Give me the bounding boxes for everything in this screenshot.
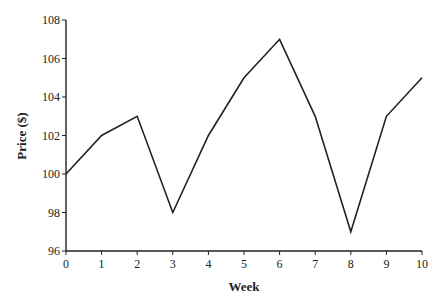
x-tick-label: 7 xyxy=(312,257,318,271)
x-tick-label: 10 xyxy=(416,257,428,271)
x-tick-label: 5 xyxy=(241,257,247,271)
x-tick-label: 1 xyxy=(99,257,105,271)
y-tick-label: 102 xyxy=(42,129,60,143)
x-tick-label: 6 xyxy=(277,257,283,271)
x-axis: 012345678910 xyxy=(63,251,428,271)
x-tick-label: 0 xyxy=(63,257,69,271)
price-line-chart: 9698100102104106108 012345678910 Week Pr… xyxy=(0,0,448,304)
x-tick-label: 4 xyxy=(205,257,211,271)
x-axis-title: Week xyxy=(228,279,260,294)
y-tick-label: 98 xyxy=(48,206,60,220)
y-tick-label: 100 xyxy=(42,167,60,181)
x-tick-label: 8 xyxy=(348,257,354,271)
x-tick-label: 2 xyxy=(134,257,140,271)
x-tick-label: 3 xyxy=(170,257,176,271)
y-tick-label: 96 xyxy=(48,244,60,258)
price-series-line xyxy=(66,39,422,232)
y-tick-label: 104 xyxy=(42,90,60,104)
y-tick-label: 108 xyxy=(42,13,60,27)
chart-svg: 9698100102104106108 012345678910 Week Pr… xyxy=(0,0,448,304)
y-axis: 9698100102104106108 xyxy=(42,13,66,258)
x-tick-label: 9 xyxy=(383,257,389,271)
y-tick-label: 106 xyxy=(42,52,60,66)
y-axis-title: Price ($) xyxy=(14,112,29,159)
